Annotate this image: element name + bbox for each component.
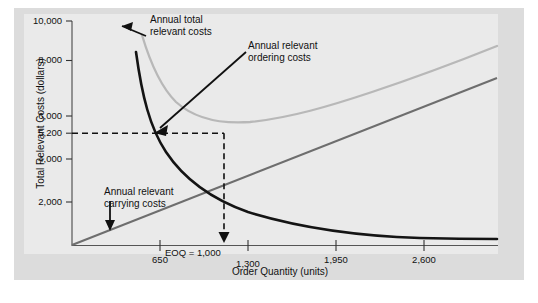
- annotation-annual-relevant-ordering-costs: Annual relevant ordering costs: [248, 40, 318, 64]
- x-axis-title: Order Quantity (units): [160, 266, 400, 277]
- annotation-carrying-line2: carrying costs: [104, 198, 174, 210]
- annotation-ordering-line1: Annual relevant: [248, 40, 318, 52]
- y-axis-title: Total Relevant Costs (dollars): [35, 44, 46, 204]
- eoq-marker-label: EOQ = 1,000: [165, 247, 221, 258]
- y-tick-marks: [66, 21, 72, 202]
- annotation-total-line2: relevant costs: [150, 26, 212, 38]
- annotation-annual-total-relevant-costs: Annual total relevant costs: [150, 14, 212, 38]
- chart-figure: 10,000 8,000 6,000 5,200 4,000 2,000 650…: [0, 0, 538, 303]
- ordering-costs-curve: [136, 52, 497, 239]
- eoq-guide-arrowhead: [219, 232, 230, 243]
- annotation-ordering-line2: ordering costs: [248, 52, 318, 64]
- carrying-costs-line: [72, 78, 497, 245]
- annotation-carrying-line1: Annual relevant: [104, 186, 174, 198]
- y-tick-label-10000: 10,000: [6, 15, 62, 26]
- x-tick-label-1950: 1,950: [308, 254, 364, 265]
- annotation-total-line1: Annual total: [150, 14, 212, 26]
- annotation-annual-relevant-carrying-costs: Annual relevant carrying costs: [104, 186, 174, 210]
- total-costs-curve: [142, 35, 497, 122]
- x-tick-label-2600: 2,600: [396, 254, 452, 265]
